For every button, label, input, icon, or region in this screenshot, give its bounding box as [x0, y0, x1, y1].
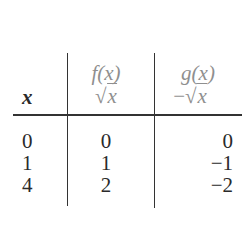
cell-f-2: 2 — [101, 174, 112, 196]
header-g-name: g(x) — [181, 62, 215, 84]
cell-x-2: 4 — [22, 174, 33, 196]
header-rule — [13, 114, 242, 116]
column-divider-2 — [154, 53, 155, 208]
column-divider-1 — [67, 53, 68, 206]
cell-f-1: 1 — [101, 152, 112, 174]
header-f-var: x — [107, 83, 117, 108]
cell-g-1: −1 — [211, 152, 233, 174]
header-f-name: f(x) — [91, 62, 120, 84]
header-g-formula: −√x — [173, 85, 207, 107]
header-f-formula: √x — [95, 85, 117, 107]
cell-g-2: −2 — [211, 174, 233, 196]
cell-x-0: 0 — [22, 130, 33, 152]
neg-sqrt-symbol: −√ — [173, 84, 196, 108]
header-x: x — [22, 86, 33, 108]
cell-x-1: 1 — [22, 152, 33, 174]
header-g-var: x — [197, 83, 207, 108]
cell-f-0: 0 — [101, 130, 112, 152]
sqrt-symbol: √ — [95, 84, 107, 108]
cell-g-0: 0 — [223, 130, 234, 152]
